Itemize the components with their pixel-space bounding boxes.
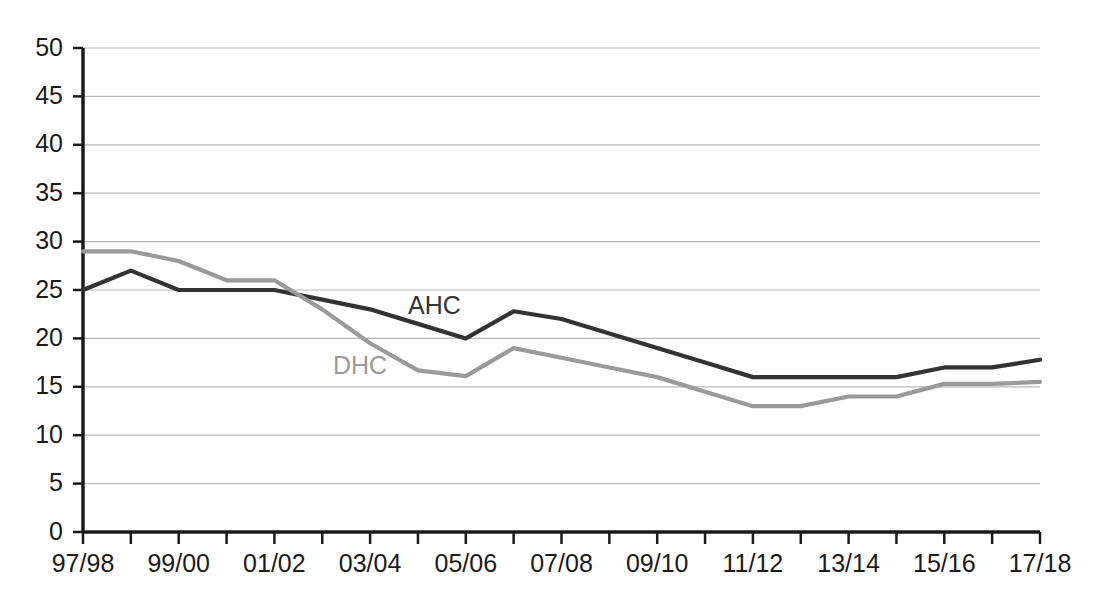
- x-axis-tick-label: 07/08: [530, 549, 593, 577]
- series-paths-group: [83, 251, 1040, 406]
- gridlines-group: [83, 48, 1040, 484]
- y-axis-tick-label: 0: [49, 517, 63, 545]
- chart-canvas: 05101520253035404550 97/9899/0001/0203/0…: [0, 0, 1095, 610]
- series-label-dhc: DHC: [333, 351, 387, 379]
- y-axis-tick-label: 45: [35, 81, 63, 109]
- x-axis-tick-label: 05/06: [435, 549, 498, 577]
- x-axis-tick-label: 03/04: [339, 549, 402, 577]
- y-axis-tick-label: 35: [35, 178, 63, 206]
- line-chart: 05101520253035404550 97/9899/0001/0203/0…: [0, 0, 1095, 610]
- x-axis-tick-label: 13/14: [817, 549, 880, 577]
- x-tick-labels-group: 97/9899/0001/0203/0405/0607/0809/1011/12…: [52, 549, 1072, 577]
- y-axis-tick-label: 10: [35, 420, 63, 448]
- y-axis-tick-label: 40: [35, 129, 63, 157]
- series-label-ahc: AHC: [408, 291, 461, 319]
- y-tick-labels-group: 05101520253035404550: [35, 33, 63, 545]
- y-axis-tick-label: 30: [35, 226, 63, 254]
- x-axis-tick-label: 97/98: [52, 549, 115, 577]
- x-axis-tick-label: 01/02: [243, 549, 306, 577]
- series-line-ahc: [83, 271, 1040, 377]
- y-axis-tick-label: 15: [35, 371, 63, 399]
- x-axis-tick-label: 15/16: [913, 549, 976, 577]
- y-axis-tick-label: 50: [35, 33, 63, 61]
- y-axis-tick-label: 20: [35, 323, 63, 351]
- x-axis-tick-label: 09/10: [626, 549, 689, 577]
- x-axis-tick-label: 99/00: [147, 549, 210, 577]
- y-axis-tick-label: 25: [35, 275, 63, 303]
- x-tick-marks-group: [83, 532, 1040, 544]
- x-axis-tick-label: 11/12: [723, 549, 784, 577]
- y-axis-tick-label: 5: [49, 468, 63, 496]
- series-line-dhc: [83, 251, 1040, 406]
- x-axis-tick-label: 17/18: [1009, 549, 1072, 577]
